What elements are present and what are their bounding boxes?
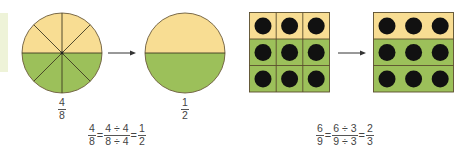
fraction-lhs: 69 (316, 123, 324, 147)
equation-six-ninths: 69 = 6 ÷ 39 ÷ 3 = 23 (316, 123, 374, 147)
fraction-rhs: 23 (366, 123, 374, 147)
fraction-lhs: 48 (88, 123, 96, 147)
equation-four-eighths: 48 = 4 ÷ 48 ÷ 4 = 12 (88, 123, 146, 147)
circle-halves-diagram (144, 12, 226, 94)
dot-grid-thirds (373, 12, 455, 93)
fraction-middle: 4 ÷ 48 ÷ 4 (104, 123, 129, 147)
dot-grid-ninths (249, 12, 331, 93)
arrow-icon (337, 48, 367, 58)
sidebar-strip (0, 13, 8, 72)
fraction-rhs: 12 (138, 123, 146, 147)
fraction-middle: 6 ÷ 39 ÷ 3 (332, 123, 357, 147)
arrow-icon (107, 48, 137, 58)
label-four-eighths: 48 (53, 97, 71, 121)
circle-eighths-diagram (21, 12, 103, 94)
label-one-half: 12 (176, 97, 194, 121)
